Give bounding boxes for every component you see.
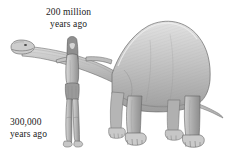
dinosaur-age-label: 200 million years ago bbox=[46, 7, 91, 30]
human-foot-left bbox=[63, 141, 72, 147]
human-leg-left bbox=[66, 99, 72, 143]
dinosaur-age-label-line1: 200 million bbox=[46, 7, 91, 19]
human-age-label-line1: 300,000 bbox=[10, 117, 47, 129]
dinosaur-foot-hind-far bbox=[165, 130, 183, 140]
figure-root: 200 million years ago 300,000 years ago bbox=[0, 0, 225, 157]
human-foot-right bbox=[74, 141, 83, 147]
dinosaur-foot-front-near bbox=[125, 133, 146, 145]
human-age-label: 300,000 years ago bbox=[10, 117, 47, 140]
human-loincloth bbox=[65, 83, 79, 100]
dinosaur-age-label-line2: years ago bbox=[46, 19, 91, 31]
dinosaur-foot-front-far bbox=[109, 128, 126, 138]
dinosaur-head bbox=[11, 40, 34, 54]
human-age-label-line2: years ago bbox=[10, 129, 47, 141]
